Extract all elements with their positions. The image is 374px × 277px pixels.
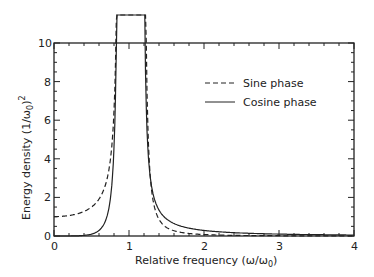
x-axis-label: Relative frequency (ω/ω0): [135, 254, 277, 269]
svg-text:4: 4: [44, 153, 51, 166]
svg-text:6: 6: [44, 114, 51, 127]
legend-cosine-label: Cosine phase: [243, 96, 317, 109]
plot-frame: [54, 43, 354, 236]
svg-text:0: 0: [51, 240, 58, 253]
plot: 012340246810 Sine phase Cosine phase Rel…: [0, 0, 374, 277]
legend-sine-label: Sine phase: [243, 77, 304, 90]
svg-text:0: 0: [44, 230, 51, 243]
svg-text:10: 10: [38, 37, 52, 50]
svg-text:1: 1: [126, 240, 133, 253]
svg-text:3: 3: [276, 240, 283, 253]
svg-text:2: 2: [201, 240, 208, 253]
chart: 012340246810 Sine phase Cosine phase Rel…: [0, 0, 374, 277]
svg-text:4: 4: [351, 240, 358, 253]
y-axis-label: Energy density (1/ω0)2: [18, 95, 35, 220]
svg-text:2: 2: [44, 191, 51, 204]
svg-text:8: 8: [44, 76, 51, 89]
